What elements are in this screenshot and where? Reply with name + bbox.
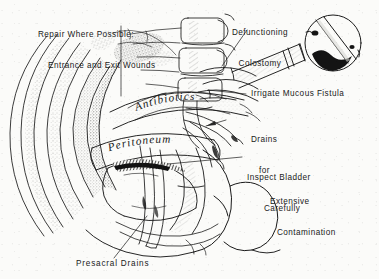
repair-wounds-line1: Repair Where Possible: bbox=[38, 30, 156, 40]
label-repair-wounds: Repair Where Possible: Entrance and Exit… bbox=[38, 9, 156, 92]
pelvic-floor bbox=[116, 222, 220, 246]
bladder-injury-shading bbox=[112, 159, 186, 172]
label-irrigate-fistula: Irrigate Mucous Fistula bbox=[251, 89, 344, 99]
colostomy-line1: Defunctioning bbox=[232, 28, 288, 38]
peritoneum-script-label: Peritoneum bbox=[105, 133, 171, 154]
bladder-line2: Carefully bbox=[264, 204, 311, 214]
drains-line1: Drains bbox=[251, 135, 336, 145]
colostomy-line2: Colostomy bbox=[232, 59, 288, 69]
label-presacral-drains: Presacral Drains bbox=[76, 259, 149, 269]
label-defunctioning-colostomy: Defunctioning Colostomy bbox=[232, 7, 288, 90]
label-inspect-bladder: Inspect Bladder Carefully bbox=[247, 152, 311, 235]
illustration-canvas: Antibiotics Peritoneum Repair Where Poss… bbox=[0, 0, 379, 279]
presacral-drains-leader bbox=[114, 216, 147, 258]
bladder-line1: Inspect Bladder bbox=[247, 173, 311, 183]
repair-wounds-line2: Entrance and Exit Wounds bbox=[48, 61, 156, 71]
